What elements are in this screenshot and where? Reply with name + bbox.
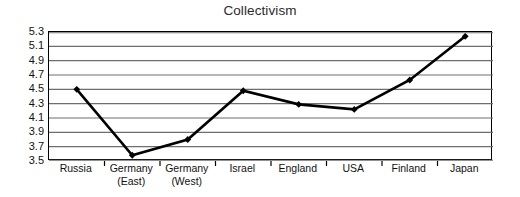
y-axis-tick-label: 4.1 (0, 112, 44, 123)
chart-title: Collectivism (0, 3, 520, 18)
x-axis-category-label-line: England (278, 162, 317, 174)
chart-figure: Collectivism 5.35.14.94.74.54.34.13.93.7… (0, 0, 520, 197)
y-axis-tick-label: 4.9 (0, 54, 44, 65)
y-axis-tick-label: 3.5 (0, 155, 44, 166)
data-series-collectivism (49, 32, 493, 161)
x-axis-category-label: Israel (229, 162, 255, 175)
data-point-marker (295, 101, 302, 108)
x-axis-category-label-line: (West) (165, 175, 208, 188)
x-axis-category-label-line: Israel (229, 162, 255, 174)
y-axis-tick-label: 3.9 (0, 126, 44, 137)
plot-area (48, 31, 492, 160)
x-axis-category-label-line: USA (342, 162, 364, 174)
x-axis-category-label: Japan (450, 162, 479, 175)
x-axis-category-label-line: (East) (110, 175, 153, 188)
x-axis-category-label: Germany(East) (110, 162, 153, 187)
data-line (77, 36, 466, 155)
y-axis-tick-label: 4.7 (0, 69, 44, 80)
y-axis-tick-label: 5.3 (0, 26, 44, 37)
x-axis-category-label: Finland (392, 162, 426, 175)
y-axis-tick-label: 4.3 (0, 97, 44, 108)
x-axis-category-label: Russia (60, 162, 92, 175)
y-axis-tick-label: 4.5 (0, 83, 44, 94)
x-axis-category-label: USA (342, 162, 364, 175)
x-axis-category-label-line: Germany (165, 162, 208, 174)
x-axis-category-label-line: Germany (110, 162, 153, 174)
y-axis-tick-label: 3.7 (0, 140, 44, 151)
x-axis-category-label-line: Japan (450, 162, 479, 174)
x-axis-category-label-line: Finland (392, 162, 426, 174)
x-axis: RussiaGermany(East)Germany(West)IsraelEn… (48, 162, 492, 196)
y-axis-tick-label: 5.1 (0, 40, 44, 51)
x-axis-category-label: England (278, 162, 317, 175)
y-axis: 5.35.14.94.74.54.34.13.93.73.5 (0, 31, 44, 160)
x-axis-category-label-line: Russia (60, 162, 92, 174)
x-axis-category-label: Germany(West) (165, 162, 208, 187)
